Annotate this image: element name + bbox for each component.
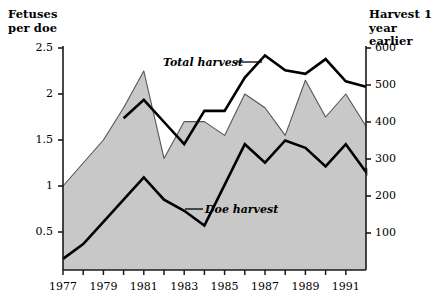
right-axis-tick-label: 600 (375, 41, 411, 54)
x-axis-tick-label: 1987 (245, 280, 285, 293)
chart-figure: Fetuses per doe Harvest 1 year earlier 0… (0, 0, 435, 306)
x-axis-tick-label: 1977 (43, 280, 83, 293)
left-axis-tick-label: 1.5 (19, 133, 53, 146)
x-axis-tick-label: 1985 (205, 280, 245, 293)
right-axis-tick-label: 100 (375, 226, 411, 239)
x-axis-tick-label: 1979 (83, 280, 123, 293)
right-axis-tick-label: 300 (375, 152, 411, 165)
left-axis-tick-label: 1 (19, 179, 53, 192)
plot-area (0, 0, 435, 306)
left-axis-tick-label: 2 (19, 87, 53, 100)
x-axis-tick-label: 1981 (124, 280, 164, 293)
x-axis-tick-label: 1989 (285, 280, 325, 293)
x-axis-tick-label: 1991 (326, 280, 366, 293)
doe-harvest-series-label: Doe harvest (205, 203, 278, 216)
right-axis-tick-label: 500 (375, 78, 411, 91)
right-axis-tick-label: 400 (375, 115, 411, 128)
fetuses-per-doe-area (63, 71, 366, 270)
x-axis-tick-label: 1983 (164, 280, 204, 293)
left-axis-tick-label: 0.5 (19, 225, 53, 238)
left-axis-tick-label: 2.5 (19, 41, 53, 54)
total-harvest-series-label: Total harvest (163, 56, 243, 69)
right-axis-tick-label: 200 (375, 189, 411, 202)
